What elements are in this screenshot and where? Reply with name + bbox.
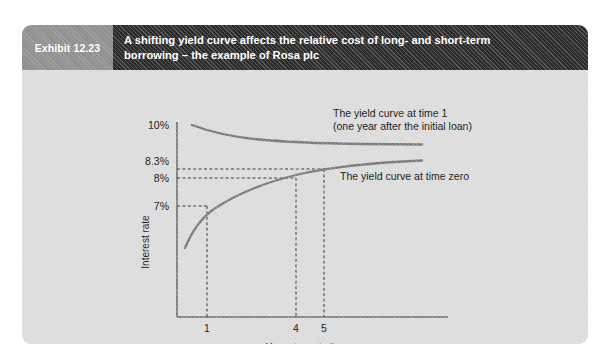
- exhibit-card: Exhibit 12.23 A shifting yield curve aff…: [22, 25, 588, 344]
- annotation-time-1-line-1: The yield curve at time 1: [333, 107, 448, 119]
- chart-plot-area: 10% 8.3% 8% 7% 1 4 5 Years to maturity I…: [22, 70, 588, 344]
- y-tick-label-8.3pct: 8.3%: [145, 155, 169, 167]
- y-tick-label-8pct: 8%: [154, 172, 169, 184]
- annotation-time-1-line-2: (one year after the initial loan): [333, 120, 472, 132]
- y-axis-title: Interest rate: [140, 215, 151, 269]
- exhibit-header: Exhibit 12.23 A shifting yield curve aff…: [22, 25, 588, 70]
- exhibit-title: A shifting yield curve affects the relat…: [124, 33, 490, 63]
- x-axis-title: Years to maturity: [266, 342, 341, 344]
- y-tick-label-10pct: 10%: [148, 119, 169, 131]
- annotation-time-zero: The yield curve at time zero: [340, 170, 469, 182]
- exhibit-number-band: Exhibit 12.23: [22, 25, 113, 70]
- exhibit-title-band: A shifting yield curve affects the relat…: [113, 25, 588, 70]
- exhibit-title-line-2: borrowing – the example of Rosa plc: [124, 49, 319, 61]
- x-tick-label-1: 1: [204, 322, 210, 334]
- x-tick-label-5: 5: [321, 322, 327, 334]
- exhibit-title-line-1: A shifting yield curve affects the relat…: [124, 34, 490, 46]
- exhibit-number-label: Exhibit 12.23: [35, 42, 101, 54]
- y-tick-label-7pct: 7%: [154, 200, 169, 212]
- x-tick-label-4: 4: [293, 322, 299, 334]
- yield-curve-chart: 10% 8.3% 8% 7% 1 4 5 Years to maturity I…: [22, 70, 588, 344]
